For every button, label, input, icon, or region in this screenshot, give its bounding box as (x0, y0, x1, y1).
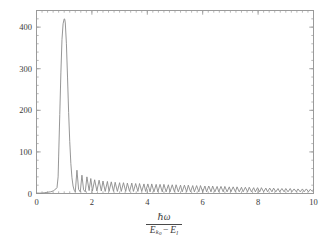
svg-text:6: 6 (201, 197, 205, 207)
svg-text:0: 0 (34, 197, 38, 207)
svg-text:8: 8 (256, 197, 260, 207)
svg-text:300: 300 (19, 64, 32, 74)
svg-text:0: 0 (28, 189, 32, 199)
figure-container: 02468100100200300400 ℏω Ek0−El (0, 0, 328, 247)
line-chart: 02468100100200300400 (0, 0, 328, 247)
svg-text:10: 10 (309, 197, 318, 207)
svg-text:4: 4 (145, 197, 150, 207)
svg-text:2: 2 (90, 197, 94, 207)
svg-text:200: 200 (19, 105, 32, 115)
svg-text:400: 400 (19, 22, 32, 32)
svg-text:100: 100 (19, 147, 32, 157)
chart-background (0, 0, 328, 247)
